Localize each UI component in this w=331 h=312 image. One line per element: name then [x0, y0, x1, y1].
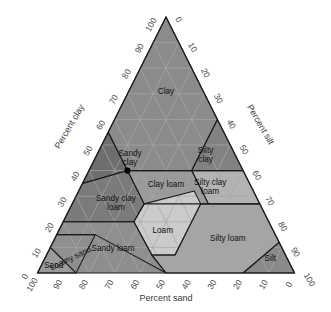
- tick-silt-70: 70: [263, 194, 277, 207]
- tick-sand-20: 20: [231, 278, 245, 291]
- class-label-silt: Silt: [265, 254, 277, 263]
- tick-silt-100: 100: [302, 271, 318, 289]
- tick-sand-80: 80: [77, 278, 91, 291]
- tick-clay-20: 20: [43, 221, 57, 234]
- axis-title-clay: Percent clay: [53, 102, 87, 150]
- class-label-sandy-loam: Sandy loam: [91, 244, 134, 253]
- tick-clay-80: 80: [120, 67, 134, 80]
- tick-clay-50: 50: [81, 144, 95, 157]
- tick-silt-10: 10: [186, 41, 200, 54]
- tick-clay-70: 70: [107, 93, 121, 106]
- tick-sand-0: 0: [283, 280, 294, 289]
- data-point-group[interactable]: [124, 168, 130, 174]
- axis-title-sand: Percent sand: [139, 293, 192, 303]
- tick-silt-60: 60: [250, 169, 264, 182]
- tick-clay-90: 90: [132, 41, 146, 54]
- axis-title-silt: Percent silt: [245, 103, 276, 147]
- ternary-diagram-svg: 1009080706050403020100010203040506070809…: [0, 0, 331, 312]
- class-label-silty-loam: Silty loam: [210, 234, 246, 243]
- tick-clay-60: 60: [94, 118, 108, 131]
- tick-clay-40: 40: [68, 169, 82, 182]
- tick-clay-30: 30: [55, 195, 69, 208]
- tick-silt-50: 50: [238, 143, 252, 156]
- tick-sand-30: 30: [205, 278, 219, 291]
- tick-silt-90: 90: [289, 245, 303, 258]
- class-label-clay-loam: Clay loam: [148, 180, 185, 189]
- tick-silt-0: 0: [173, 15, 184, 24]
- tick-sand-50: 50: [154, 278, 168, 291]
- tick-silt-20: 20: [199, 66, 213, 79]
- tick-sand-60: 60: [128, 278, 142, 291]
- tick-silt-30: 30: [212, 92, 226, 105]
- class-label-sand: Sand: [44, 261, 64, 270]
- class-label-silty-clay: Siltyclay: [198, 146, 214, 164]
- tick-clay-10: 10: [30, 246, 44, 259]
- tick-clay-100: 100: [143, 16, 159, 34]
- data-point-marker[interactable]: [124, 168, 130, 174]
- soil-texture-triangle-figure: 1009080706050403020100010203040506070809…: [0, 0, 331, 312]
- class-label-clay: Clay: [158, 87, 175, 96]
- tick-sand-70: 70: [102, 278, 116, 291]
- tick-sand-40: 40: [179, 278, 193, 291]
- class-label-loam: Loam: [152, 226, 173, 235]
- tick-silt-40: 40: [225, 117, 239, 130]
- tick-sand-90: 90: [51, 278, 65, 291]
- tick-sand-10: 10: [257, 278, 271, 291]
- tick-silt-80: 80: [276, 220, 290, 233]
